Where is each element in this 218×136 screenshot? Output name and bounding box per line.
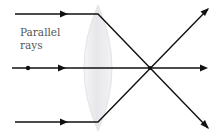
label-line-2: rays	[20, 39, 60, 52]
diagram-canvas	[0, 0, 218, 136]
axis-ray-dot-icon	[26, 66, 30, 70]
axis-ray-exit-arrowhead-icon	[200, 65, 208, 72]
label-line-1: Parallel	[20, 26, 60, 39]
bottom-ray-incident-arrowhead-icon	[60, 119, 68, 126]
axis-ray-incident-arrowhead-icon	[58, 65, 66, 72]
focal-point-icon	[148, 66, 152, 70]
top-ray-incident-arrowhead-icon	[60, 11, 68, 18]
parallel-rays-label: Parallel rays	[20, 26, 60, 52]
